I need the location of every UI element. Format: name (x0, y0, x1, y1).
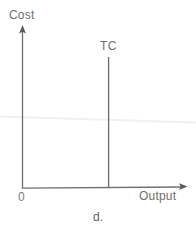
scan-artifact-line (0, 117, 196, 123)
panel-caption: d. (0, 211, 196, 224)
x-axis-label: Output (139, 190, 176, 203)
y-axis-label: Cost (9, 9, 34, 22)
origin-label: 0 (18, 191, 25, 204)
tc-curve-label: TC (100, 40, 117, 53)
cost-output-figure: Cost TC 0 Output d. (0, 0, 196, 238)
